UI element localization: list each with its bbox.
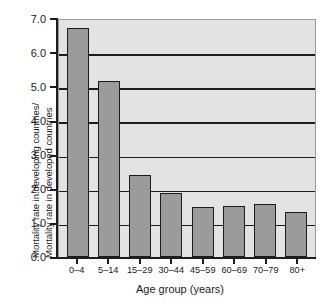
- x-tick-slot: [93, 259, 125, 264]
- bar-slot-5-14: [93, 20, 124, 257]
- x-tick-label-5-14: 5–14: [93, 265, 125, 276]
- x-axis-title: Age group (years): [40, 283, 320, 296]
- x-tick-marks: [58, 259, 316, 264]
- y-tick-label-2: 2.0: [6, 184, 46, 195]
- bar-70-79: [254, 204, 276, 257]
- x-tick-label-60-69: 60–69: [219, 265, 251, 276]
- x-tick-slot: [61, 259, 93, 264]
- x-tick-mark: [107, 259, 109, 264]
- x-tick-mark: [296, 259, 298, 264]
- bar-5-14: [98, 81, 120, 257]
- y-tick-label-4: 4.0: [6, 116, 46, 127]
- y-tick-label-6: 6.0: [6, 48, 46, 59]
- y-tick-label-7: 7.0: [6, 14, 46, 25]
- bar-30-44: [160, 193, 182, 257]
- x-tick-slot: [187, 259, 219, 264]
- bar-60-69: [223, 206, 245, 257]
- x-tick-mark: [233, 259, 235, 264]
- y-tick-label-3: 3.0: [6, 150, 46, 161]
- bar-slot-70-79: [250, 20, 281, 257]
- x-tick-label-80plus: 80+: [282, 265, 314, 276]
- x-tick-mark: [76, 259, 78, 264]
- bar-45-59: [192, 207, 214, 257]
- bar-slot-30-44: [156, 20, 187, 257]
- x-tick-slot: [219, 259, 251, 264]
- x-tick-mark: [139, 259, 141, 264]
- x-tick-label-15-29: 15–29: [124, 265, 156, 276]
- x-tick-slot: [250, 259, 282, 264]
- x-tick-label-0-4: 0–4: [61, 265, 93, 276]
- x-tick-slot: [282, 259, 314, 264]
- x-tick-mark: [265, 259, 267, 264]
- x-tick-mark: [202, 259, 204, 264]
- bar-series: [59, 20, 315, 257]
- bar-15-29: [129, 175, 151, 257]
- x-tick-mark: [170, 259, 172, 264]
- bar-80plus: [285, 212, 307, 257]
- y-tick-label-1: 1.0: [6, 218, 46, 229]
- bar-slot-80plus: [281, 20, 312, 257]
- bar-slot-45-59: [187, 20, 218, 257]
- bar-chart-figure: Mortality rate in developing countries/ …: [0, 0, 327, 304]
- bar-slot-0-4: [62, 20, 93, 257]
- bar-slot-15-29: [125, 20, 156, 257]
- bar-slot-60-69: [218, 20, 249, 257]
- y-tick-label-5: 5.0: [6, 82, 46, 93]
- x-tick-slot: [156, 259, 188, 264]
- y-tick-label-0: 0.0: [6, 252, 46, 263]
- x-tick-label-30-44: 30–44: [156, 265, 188, 276]
- x-tick-label-45-59: 45–59: [187, 265, 219, 276]
- plot-area: [58, 19, 316, 258]
- x-tick-label-70-79: 70–79: [250, 265, 282, 276]
- bar-0-4: [67, 28, 89, 257]
- x-tick-labels: 0–4 5–14 15–29 30–44 45–59 60–69 70–79 8…: [58, 265, 316, 276]
- x-tick-slot: [124, 259, 156, 264]
